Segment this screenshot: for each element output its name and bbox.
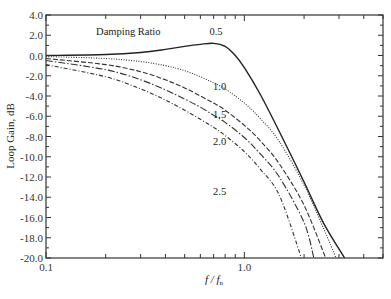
curve-damping-2-5 (46, 65, 301, 258)
y-tick-label: -2.0 (26, 70, 44, 82)
y-tick-label: 2.0 (29, 29, 43, 41)
y-tick-label: 0.0 (29, 50, 43, 62)
y-tick-label: -8.0 (26, 131, 44, 143)
damping-label: 1.5 (213, 109, 226, 120)
x-axis-title: f / fn (205, 273, 224, 287)
y-tick-label: -12.0 (20, 171, 43, 183)
damping-label: 2.0 (213, 136, 226, 147)
curve-damping-1-5 (46, 59, 326, 258)
x-tick-label: 1.0 (237, 261, 251, 273)
y-tick-label: 4.0 (29, 9, 43, 21)
damping-label: 2.5 (213, 186, 226, 197)
y-axis-title: Loop Gain, dB (4, 103, 16, 169)
damping-label: 1.0 (213, 81, 226, 92)
y-tick-label: -4.0 (26, 90, 44, 102)
y-tick-label: -10.0 (20, 151, 43, 163)
curves (46, 43, 345, 258)
y-tick-label: -6.0 (26, 110, 44, 122)
legend-title: Damping Ratio (96, 26, 160, 37)
curve-damping-0-5 (46, 43, 345, 258)
damping-label: 0.5 (209, 26, 222, 37)
y-tick-label: -16.0 (20, 212, 43, 224)
x-tick-label: 0.1 (39, 261, 53, 273)
annotations: Damping Ratio0.51.01.52.02.5 (96, 26, 226, 197)
x-axis-title-sub: n (220, 279, 224, 287)
y-tick-label: -18.0 (20, 232, 43, 244)
axes: 4.02.00.0-2.0-4.0-6.0-8.0-10.0-12.0-14.0… (20, 9, 383, 273)
curve-damping-2-0 (46, 61, 314, 258)
y-tick-label: -14.0 (20, 191, 43, 203)
loop-gain-chart: Damping Ratio0.51.01.52.02.5 4.02.00.0-2… (0, 0, 391, 299)
